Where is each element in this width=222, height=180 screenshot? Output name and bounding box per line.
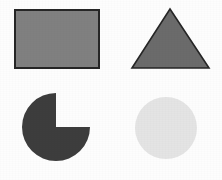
shapes-figure bbox=[0, 0, 222, 180]
shape-rectangle bbox=[15, 10, 99, 68]
shape-circle bbox=[135, 97, 197, 159]
shapes-canvas bbox=[0, 0, 222, 180]
